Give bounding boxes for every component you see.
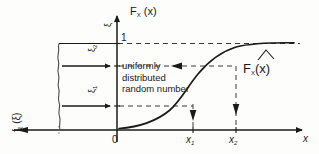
y-tick-label-xi2: ξ2 xyxy=(88,45,98,52)
y-axis-label-main: F xyxy=(130,5,137,17)
cdf-curve-label: FX(x) xyxy=(243,62,270,76)
pdf-label-main: f xyxy=(11,129,22,132)
uniform-pdf-curve xyxy=(58,44,60,131)
y-axis-label-sub: X xyxy=(137,12,141,18)
annotation-block: uniformly distributed random number xyxy=(122,60,189,95)
curve-label-leader xyxy=(258,50,274,60)
y-tick-label-xi1: ξ1 xyxy=(88,86,98,93)
cdf-curve-label-arg: (x) xyxy=(255,61,270,76)
x2-down-arrow xyxy=(233,104,240,115)
origin-label: 0 xyxy=(112,135,118,145)
x1-down-arrow xyxy=(190,110,197,121)
y-tick-label-one: 1 xyxy=(121,33,127,43)
cdf-curve-label-main: F xyxy=(243,61,251,76)
y-tick-label-xi2-main: ξ xyxy=(87,48,97,52)
y-tick-label-xi1-main: ξ xyxy=(87,89,97,93)
y-tick-label-xi2-sub: 2 xyxy=(92,45,98,48)
x-tick-label-x1: x1 xyxy=(186,135,194,146)
x-tick-label-x1-sub: 1 xyxy=(191,140,194,146)
x-axis-label: x xyxy=(303,134,308,144)
x-tick-label-x2: x2 xyxy=(229,135,237,146)
pdf-label: fξ (ξ) xyxy=(12,113,23,132)
annotation-line-2: distributed xyxy=(122,72,189,84)
annotation-line-3: random number xyxy=(122,83,189,95)
x-tick-label-x2-sub: 2 xyxy=(234,140,237,146)
figure-canvas: FX (x) ξ FX(x) 1 0 x1 x2 x ξ2 ξ1 fξ (ξ) … xyxy=(0,0,319,154)
pdf-label-sub: ξ xyxy=(17,127,23,130)
y-tick-label-xi1-sub: 1 xyxy=(92,86,98,89)
pdf-label-arg: (ξ) xyxy=(11,113,22,124)
y-axis-label: FX (x) xyxy=(130,6,157,18)
y-axis-variable-label: ξ xyxy=(104,23,113,27)
y-axis-label-arg: (x) xyxy=(144,5,157,17)
annotation-line-1: uniformly xyxy=(122,60,189,72)
